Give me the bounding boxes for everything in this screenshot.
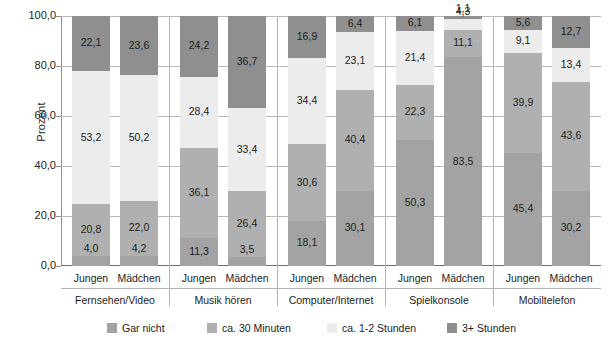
bar-value-label: 40,4 bbox=[336, 134, 374, 145]
bar-stack: 16,934,430,618,1 bbox=[288, 16, 326, 266]
bar-segment: 36,7 bbox=[228, 16, 266, 108]
legend-label: ca. 30 Minuten bbox=[222, 322, 291, 334]
bar-value-label: 22,3 bbox=[396, 106, 434, 117]
x-sub-label: Mädchen bbox=[217, 272, 277, 284]
bar-segment: 83,5 bbox=[444, 57, 482, 266]
bar-stack: 23,650,222,04,2 bbox=[120, 16, 158, 266]
bar-stack: 22,153,220,84,0 bbox=[72, 16, 110, 266]
bar-value-label: 23,1 bbox=[336, 55, 374, 66]
bar-segment: 23,1 bbox=[336, 32, 374, 90]
legend-item[interactable]: 3+ Stunden bbox=[447, 320, 516, 336]
bar-segment: 50,2 bbox=[120, 75, 158, 201]
group-separator bbox=[169, 16, 170, 306]
bar-segment: 5,6 bbox=[504, 16, 542, 30]
bar-stack: 36,733,426,43,5 bbox=[228, 16, 266, 266]
bar-value-label: 3,5 bbox=[228, 244, 266, 255]
bar-value-label: 39,9 bbox=[504, 97, 542, 108]
bar-segment: 40,4 bbox=[336, 90, 374, 191]
bar-stack: 6,121,422,350,3 bbox=[396, 16, 434, 266]
x-axis-group-rule bbox=[61, 288, 601, 289]
y-axis-ticks: 0,020,040,060,080,0100,0 bbox=[0, 0, 56, 356]
bar-segment: 30,6 bbox=[288, 144, 326, 221]
bar-segment: 43,6 bbox=[552, 82, 590, 191]
bar-stack: 5,69,139,945,4 bbox=[504, 16, 542, 266]
bar-value-label: 23,6 bbox=[120, 40, 158, 51]
bar-segment: 4,0 bbox=[72, 256, 110, 266]
legend-item[interactable]: ca. 1-2 Stunden bbox=[327, 320, 416, 336]
bar-value-label: 30,6 bbox=[288, 177, 326, 188]
bar-segment: 3,5 bbox=[228, 257, 266, 266]
bar-segment: 30,2 bbox=[552, 191, 590, 267]
x-sub-label: Mädchen bbox=[433, 272, 493, 284]
bar-segment: 6,4 bbox=[336, 16, 374, 32]
bar-segment: 36,1 bbox=[180, 148, 218, 238]
x-sub-label: Mädchen bbox=[325, 272, 385, 284]
bar-value-label: 36,7 bbox=[228, 56, 266, 67]
bar-segment: 22,1 bbox=[72, 16, 110, 71]
legend-label: Gar nicht bbox=[122, 322, 165, 334]
bar-value-label: 50,3 bbox=[396, 197, 434, 208]
bar-value-label: 26,4 bbox=[228, 218, 266, 229]
bar-segment: 39,9 bbox=[504, 53, 542, 153]
bar-value-label: 30,1 bbox=[336, 222, 374, 233]
bar-value-label: 30,2 bbox=[552, 222, 590, 233]
bar-segment: 16,9 bbox=[288, 16, 326, 58]
bar-segment: 11,1 bbox=[444, 30, 482, 58]
bar-value-label: 9,1 bbox=[504, 35, 542, 46]
group-separator bbox=[277, 16, 278, 306]
legend-swatch-icon bbox=[207, 323, 217, 333]
bar-segment: 4,3 bbox=[444, 19, 482, 30]
bar-segment: 12,7 bbox=[552, 16, 590, 48]
y-tick-label: 80,0 bbox=[12, 60, 56, 71]
bar-value-label: 6,4 bbox=[336, 18, 374, 29]
bar-stack: 24,228,436,111,3 bbox=[180, 16, 218, 266]
x-sub-label: Mädchen bbox=[541, 272, 601, 284]
bar-value-label: 11,3 bbox=[180, 246, 218, 257]
bar-stack: 1,14,311,183,5 bbox=[444, 16, 482, 266]
bar-value-label: 11,1 bbox=[444, 37, 482, 48]
bar-value-label: 50,2 bbox=[120, 132, 158, 143]
bar-segment: 18,1 bbox=[288, 221, 326, 266]
chart-legend: Gar nichtca. 30 Minutenca. 1-2 Stunden3+… bbox=[0, 320, 610, 340]
legend-swatch-icon bbox=[447, 323, 457, 333]
legend-swatch-icon bbox=[327, 323, 337, 333]
legend-item[interactable]: ca. 30 Minuten bbox=[207, 320, 291, 336]
bar-value-label: 43,6 bbox=[552, 130, 590, 141]
bar-value-label: 13,4 bbox=[552, 59, 590, 70]
bar-value-label: 45,4 bbox=[504, 203, 542, 214]
bar-value-label: 12,7 bbox=[552, 26, 590, 37]
y-tick-label: 40,0 bbox=[12, 160, 56, 171]
bar-segment: 28,4 bbox=[180, 77, 218, 148]
legend-item[interactable]: Gar nicht bbox=[107, 320, 165, 336]
legend-label: 3+ Stunden bbox=[462, 322, 516, 334]
bar-segment: 6,1 bbox=[396, 16, 434, 31]
bar-segment: 13,4 bbox=[552, 48, 590, 82]
bar-segment: 45,4 bbox=[504, 153, 542, 267]
bar-value-label: 4,2 bbox=[120, 243, 158, 254]
bar-value-label: 16,9 bbox=[288, 31, 326, 42]
bar-segment: 23,6 bbox=[120, 16, 158, 75]
bar-segment: 22,3 bbox=[396, 85, 434, 141]
y-tick-mark bbox=[56, 266, 61, 267]
bar-segment: 9,1 bbox=[504, 30, 542, 53]
bar-value-label: 6,1 bbox=[396, 17, 434, 28]
bar-value-label: 28,4 bbox=[180, 106, 218, 117]
x-group-label: Mobiltelefon bbox=[493, 294, 601, 306]
bar-stack: 12,713,443,630,2 bbox=[552, 16, 590, 266]
bar-value-label: 18,1 bbox=[288, 237, 326, 248]
group-separator bbox=[385, 16, 386, 306]
y-tick-label: 60,0 bbox=[12, 110, 56, 121]
bar-value-label: 36,1 bbox=[180, 187, 218, 198]
bar-segment: 50,3 bbox=[396, 140, 434, 266]
group-separator bbox=[493, 16, 494, 306]
bar-value-label: 20,8 bbox=[72, 224, 110, 235]
bar-value-label: 24,2 bbox=[180, 40, 218, 51]
bar-segment: 4,2 bbox=[120, 256, 158, 267]
x-group-label: Computer/Internet bbox=[277, 294, 385, 306]
bar-segment: 34,4 bbox=[288, 58, 326, 144]
bar-value-label: 21,4 bbox=[396, 52, 434, 63]
bar-segment: 30,1 bbox=[336, 191, 374, 266]
plot-area: 22,153,220,84,023,650,222,04,224,228,436… bbox=[61, 16, 601, 266]
x-group-label: Musik hören bbox=[169, 294, 277, 306]
bar-segment: 11,3 bbox=[180, 238, 218, 266]
